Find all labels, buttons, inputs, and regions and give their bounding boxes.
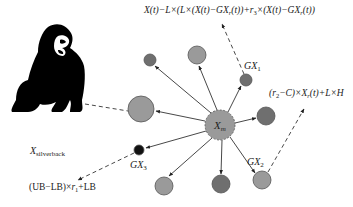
silverback-to-left-node xyxy=(85,104,128,111)
formula-top: X(t)−L×(L×(X(t)−GXr(t))+r3×(X(t)−GXr(t)) xyxy=(143,5,315,16)
silverback-label: Xsilverback xyxy=(29,145,65,158)
center-arrows xyxy=(146,66,256,176)
gx2-label: GX2 xyxy=(247,156,264,169)
gorilla-silverback-icon xyxy=(11,24,84,112)
node-gx2 xyxy=(253,171,271,189)
node-left xyxy=(128,96,154,122)
node-right xyxy=(257,107,275,125)
node-top xyxy=(188,46,206,64)
node-bottom-mid xyxy=(212,175,230,193)
gx1-label: GX1 xyxy=(244,60,261,73)
gx1-to-top-formula xyxy=(222,24,244,74)
node-top-left xyxy=(144,54,156,66)
node-gx3 xyxy=(134,145,144,155)
gx3-to-bottom-formula xyxy=(78,153,134,180)
formula-right: (r2−C)×Xr(t)+L×H xyxy=(269,88,345,99)
node-gx1 xyxy=(240,74,252,86)
gx3-label: GX3 xyxy=(130,159,147,172)
node-bottom-left xyxy=(155,177,173,195)
formula-bottom-left: (UB−LB)×r1+LB xyxy=(29,182,96,193)
gto-diagram: Xm GX1 GX2 GX3 Xsilverback X(t)−L×(L×(X(… xyxy=(0,0,353,207)
